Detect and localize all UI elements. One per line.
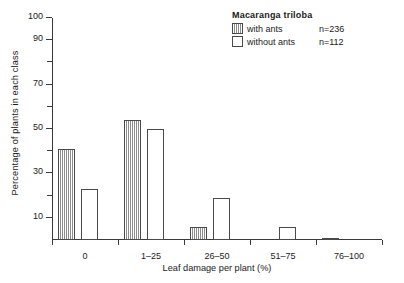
legend-item-without-ants: without ants n=112 — [232, 36, 402, 47]
plot-area: 103050709010001–2526–5051–7576–100 — [52, 18, 382, 240]
legend-label-with-ants: with ants — [247, 24, 319, 34]
legend-n-with-ants: n=236 — [319, 24, 344, 34]
x-axis-tick — [382, 240, 383, 245]
x-axis-tick-label: 26–50 — [204, 251, 229, 261]
y-axis-tick: 100 — [46, 17, 52, 18]
x-axis-title: Leaf damage per plant (%) — [52, 263, 382, 273]
bar-without-ants-125 — [147, 129, 164, 240]
y-axis-tick-label: 90 — [33, 33, 43, 43]
legend: Macaranga triloba with ants n=236 withou… — [232, 10, 402, 49]
bar-with-ants-2650 — [190, 227, 207, 240]
x-axis-tick — [118, 240, 119, 245]
legend-item-with-ants: with ants n=236 — [232, 23, 402, 34]
y-axis-tick — [47, 195, 52, 196]
y-axis-tick — [47, 61, 52, 62]
chart-figure: Percentage of plants in each class 10305… — [0, 0, 404, 283]
bar-with-ants-125 — [124, 120, 141, 240]
y-axis-title: Percentage of plants in each class — [10, 50, 20, 195]
y-axis-tick: 50 — [46, 128, 52, 129]
y-axis-tick-label: 100 — [28, 11, 43, 21]
y-axis-tick: 30 — [46, 172, 52, 173]
legend-swatch-white-icon — [232, 36, 243, 47]
y-axis-tick — [47, 150, 52, 151]
legend-label-without-ants: without ants — [247, 37, 319, 47]
y-axis-tick-label: 70 — [33, 78, 43, 88]
bar-without-ants-2650 — [213, 198, 230, 240]
bar-without-ants-5175 — [279, 227, 296, 240]
y-axis-tick: 70 — [46, 84, 52, 85]
x-axis-tick-label: 0 — [82, 251, 87, 261]
y-axis-tick — [47, 106, 52, 107]
y-axis-title-container: Percentage of plants in each class — [4, 0, 26, 245]
legend-n-without-ants: n=112 — [319, 37, 344, 47]
x-axis-tick-label: 76–100 — [334, 251, 364, 261]
y-axis-tick: 90 — [46, 39, 52, 40]
x-axis-tick — [184, 240, 185, 245]
legend-title: Macaranga triloba — [232, 10, 402, 20]
x-axis-tick-label: 1–25 — [141, 251, 161, 261]
y-axis-tick-label: 10 — [33, 211, 43, 221]
x-axis-tick — [250, 240, 251, 245]
y-axis-tick-label: 50 — [33, 122, 43, 132]
y-axis-tick: 10 — [46, 217, 52, 218]
bar-without-ants-0 — [81, 189, 98, 240]
y-axis-line — [52, 18, 53, 240]
x-axis-tick-label: 51–75 — [270, 251, 295, 261]
bar-with-ants-0 — [58, 149, 75, 240]
bar-with-ants-76100 — [322, 238, 339, 240]
x-axis-tick — [316, 240, 317, 245]
legend-swatch-hatched-icon — [232, 23, 243, 34]
x-axis-tick — [52, 240, 53, 245]
y-axis-tick-label: 30 — [33, 166, 43, 176]
